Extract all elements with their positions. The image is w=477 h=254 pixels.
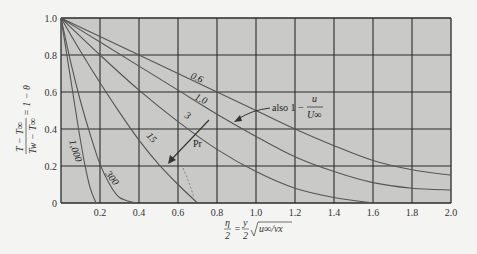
y-tick-label: 0.2	[45, 161, 58, 172]
y-axis-label: T − T∞ Tw − T∞ = 1 − θ	[14, 85, 38, 154]
x-tick-label: 0.6	[172, 207, 185, 218]
y-tick-label: 0	[52, 198, 57, 209]
also-text: also 1 −	[272, 102, 304, 113]
svg-text:T − T∞: T − T∞	[14, 122, 25, 152]
svg-text:2: 2	[243, 230, 248, 241]
svg-text:= 1 − θ: = 1 − θ	[21, 85, 32, 116]
also-num: u	[312, 93, 317, 104]
y-tick-label: 0.4	[45, 124, 58, 135]
x-tick-label: 2.0	[445, 207, 458, 218]
x-tick-label: 1.6	[367, 207, 380, 218]
x-tick-label: 1.0	[250, 207, 263, 218]
chart: 0.20.40.60.81.01.21.41.61.82.0 00.20.40.…	[0, 0, 477, 254]
x-tick-label: 0.8	[211, 207, 224, 218]
svg-text:=: =	[234, 223, 241, 234]
x-axis-label: η 2 = y 2 u∞/νx	[224, 217, 292, 241]
y-tick-label: 1.0	[45, 13, 58, 24]
x-tick-label: 1.4	[328, 207, 341, 218]
svg-text:u∞/νx: u∞/νx	[259, 223, 283, 234]
svg-text:y: y	[242, 217, 248, 228]
svg-text:η: η	[225, 217, 230, 228]
svg-text:2: 2	[225, 230, 230, 241]
x-tick-label: 0.2	[94, 207, 107, 218]
x-tick-label: 1.8	[406, 207, 419, 218]
x-tick-labels: 0.20.40.60.81.01.21.41.61.82.0	[94, 207, 458, 218]
x-tick-label: 1.2	[289, 207, 302, 218]
y-tick-labels: 00.20.40.60.81.0	[45, 13, 58, 209]
y-tick-label: 0.6	[45, 87, 58, 98]
pr-label: Pr	[193, 138, 203, 149]
also-den: U∞	[307, 109, 321, 120]
y-tick-label: 0.8	[45, 50, 58, 61]
svg-text:Tw − T∞: Tw − T∞	[27, 118, 38, 154]
x-tick-label: 0.4	[133, 207, 146, 218]
